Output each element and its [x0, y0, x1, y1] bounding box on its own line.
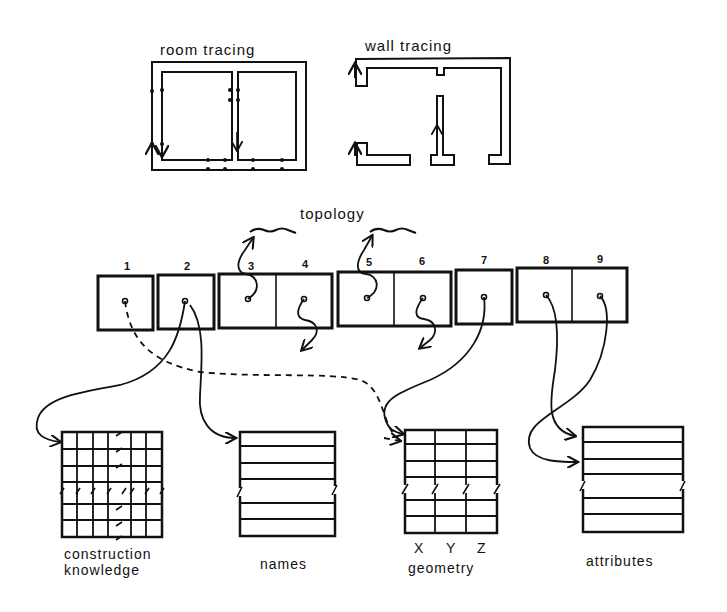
record-cells: 1 2 3 4 5 6 7 8 9: [98, 253, 627, 330]
cell-number-7: 7: [481, 254, 487, 266]
wall-tracing-figure: wall tracing: [355, 37, 510, 165]
table-construction-knowledge: construction knowledge: [60, 432, 164, 578]
construction-label-line2: knowledge: [64, 562, 140, 578]
cell-number-3: 3: [248, 260, 254, 272]
construction-label-line1: construction: [64, 546, 151, 562]
vertex-dots: [150, 88, 284, 171]
break-marks-icon: [237, 485, 337, 497]
cell-number-4: 4: [302, 258, 309, 270]
geometry-col-x: X: [414, 540, 424, 556]
pointer-links: [37, 236, 607, 462]
break-marks-icon: [402, 484, 500, 494]
topology-brace-icon: [370, 229, 416, 234]
cell-number-6: 6: [419, 255, 425, 267]
wall-tracing-title: wall tracing: [364, 37, 452, 54]
link-1-geometry: [125, 301, 402, 440]
link-6-out: [416, 298, 435, 348]
topology-brace-icon: [250, 229, 296, 234]
room-tracing-title: room tracing: [160, 41, 255, 58]
geometry-label: geometry: [408, 560, 474, 576]
link-2-construction: [37, 301, 185, 442]
link-7-geometry: [384, 297, 484, 434]
cell-number-5: 5: [366, 256, 372, 268]
data-structure-diagram: room tracing wall tracing: [0, 0, 727, 612]
table-attributes: attributes: [580, 427, 685, 569]
cell-number-8: 8: [543, 254, 549, 266]
names-label: names: [260, 556, 307, 572]
geometry-col-z: Z: [477, 540, 487, 556]
topology-label: topology: [300, 205, 365, 222]
table-geometry: X Y Z geometry: [402, 430, 500, 576]
room-tracing-figure: room tracing: [150, 41, 306, 171]
break-marks-icon: [580, 481, 685, 491]
table-names: names: [237, 432, 337, 572]
link-8-attributes: [546, 295, 575, 436]
link-4-out: [298, 299, 317, 350]
cell-number-1: 1: [124, 260, 130, 272]
attributes-label: attributes: [586, 553, 654, 569]
cell-number-2: 2: [184, 260, 190, 272]
cell-number-9: 9: [597, 253, 603, 265]
geometry-col-y: Y: [446, 540, 456, 556]
